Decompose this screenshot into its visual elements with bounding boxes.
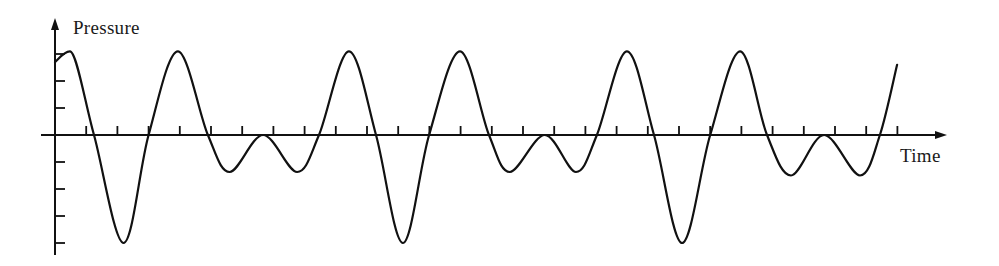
pressure-waveform-line [55, 51, 897, 243]
y-axis-arrow-icon [51, 18, 59, 30]
y-axis-ticks [55, 54, 65, 243]
pressure-time-chart: Pressure Time [0, 0, 999, 266]
x-axis-arrow-icon [935, 131, 947, 139]
y-axis-label: Pressure [73, 18, 140, 37]
plot-area [0, 0, 999, 266]
axes [41, 18, 947, 255]
x-axis-label: Time [900, 146, 941, 165]
